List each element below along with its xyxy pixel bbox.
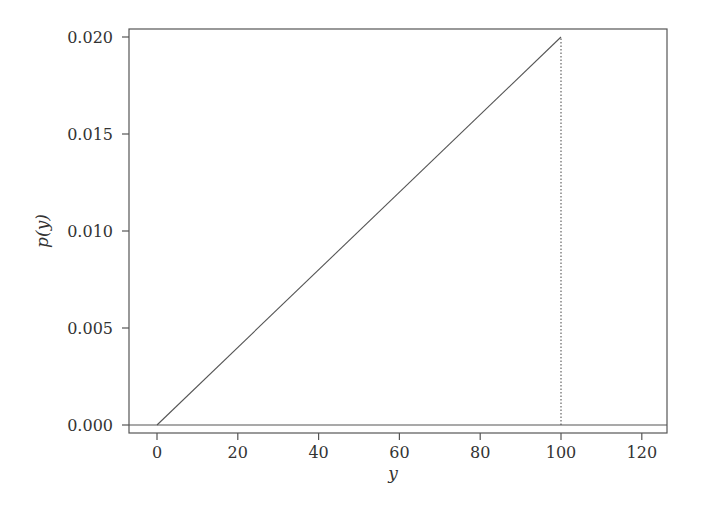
y-tick-label: 0.020 — [67, 28, 113, 47]
plot-frame — [129, 29, 667, 433]
series-density — [157, 37, 561, 425]
chart: 020406080100120 0.0000.0050.0100.0150.02… — [0, 0, 704, 518]
y-tick-label: 0.010 — [67, 222, 113, 241]
plot-series — [129, 37, 667, 425]
x-tick-label: 0 — [152, 443, 162, 462]
y-tick-label: 0.005 — [67, 319, 113, 338]
x-tick-label: 60 — [389, 443, 409, 462]
x-axis-title: y — [387, 463, 398, 483]
x-tick-label: 120 — [627, 443, 658, 462]
y-tick-label: 0.015 — [67, 125, 113, 144]
x-axis: 020406080100120 — [152, 433, 657, 462]
x-tick-label: 40 — [308, 443, 328, 462]
y-axis: 0.0000.0050.0100.0150.020 — [67, 28, 129, 435]
x-tick-label: 80 — [470, 443, 490, 462]
x-tick-label: 100 — [546, 443, 577, 462]
x-tick-label: 20 — [228, 443, 248, 462]
y-tick-label: 0.000 — [67, 416, 113, 435]
y-axis-title: p(y) — [32, 214, 52, 248]
